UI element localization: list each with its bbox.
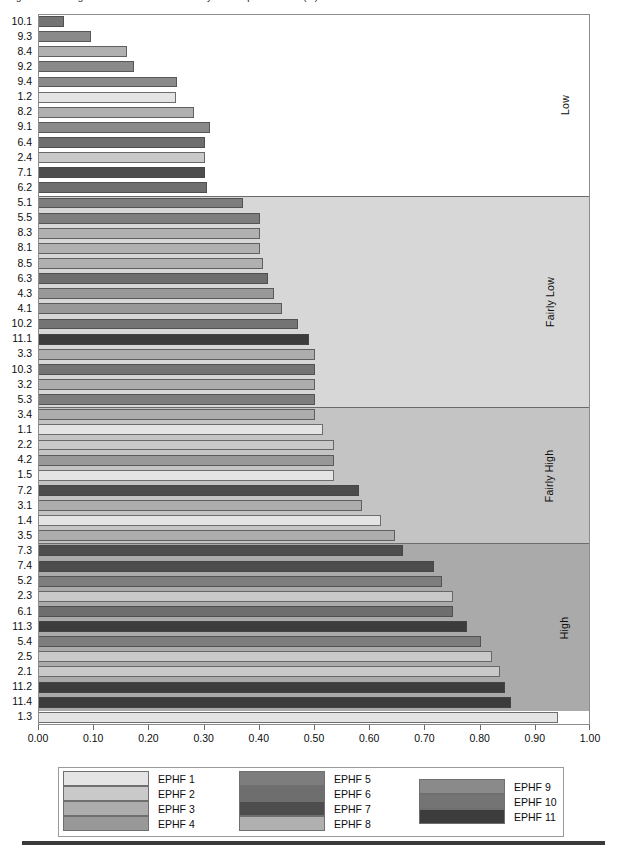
- bar-row: [39, 408, 589, 423]
- y-axis-tick-label: 5.2: [17, 574, 32, 586]
- y-axis-tick-label: 9.3: [17, 30, 32, 42]
- y-axis-tick-label: 8.5: [17, 257, 32, 269]
- bar: [39, 182, 207, 193]
- bar: [39, 167, 205, 178]
- bar: [39, 636, 481, 647]
- bar-row: [39, 181, 589, 196]
- y-axis-tick-label: 10.3: [12, 363, 32, 375]
- legend-column: EPHF 1EPHF 2EPHF 3EPHF 4: [63, 771, 195, 831]
- legend-item[interactable]: EPHF 6: [239, 786, 371, 801]
- bar: [39, 666, 500, 677]
- bar: [39, 61, 134, 72]
- y-axis-tick-label: 10.1: [12, 15, 32, 27]
- x-axis-tick: [204, 725, 205, 730]
- bar: [39, 273, 268, 284]
- bar: [39, 530, 395, 541]
- y-axis-tick-label: 5.5: [17, 211, 32, 223]
- x-axis-tick-label: 0.30: [193, 732, 213, 744]
- bar: [39, 228, 260, 239]
- legend-label: EPHF 9: [514, 781, 551, 793]
- bar-row: [39, 423, 589, 438]
- legend-item[interactable]: EPHF 1: [63, 771, 195, 786]
- legend-swatch: [239, 816, 325, 831]
- bar: [39, 77, 177, 88]
- legend-item[interactable]: EPHF 10: [419, 794, 557, 809]
- bar-row: [39, 106, 589, 121]
- legend-item[interactable]: EPHF 11: [419, 809, 557, 824]
- bar-row: [39, 30, 589, 45]
- legend-swatch: [419, 794, 505, 809]
- bar-row: [39, 439, 589, 454]
- bar: [39, 561, 434, 572]
- bar-row: [39, 333, 589, 348]
- y-axis-tick-label: 9.1: [17, 120, 32, 132]
- bar: [39, 712, 558, 723]
- x-axis-tick-label: 0.70: [414, 732, 434, 744]
- bar: [39, 349, 315, 360]
- bar: [39, 621, 467, 632]
- y-axis-category-labels: 10.19.38.49.29.41.28.29.16.42.47.16.25.1…: [0, 14, 35, 725]
- legend-swatch: [419, 809, 505, 824]
- legend-item[interactable]: EPHF 2: [63, 786, 195, 801]
- x-axis-tick: [93, 725, 94, 730]
- bar-row: [39, 378, 589, 393]
- y-axis-tick-label: 8.2: [17, 105, 32, 117]
- bar-row: [39, 166, 589, 181]
- legend-swatch: [63, 816, 149, 831]
- legend-label: EPHF 4: [158, 818, 195, 830]
- legend-item[interactable]: EPHF 5: [239, 771, 371, 786]
- legend-column: EPHF 5EPHF 6EPHF 7EPHF 8: [239, 771, 371, 831]
- bar-row: [39, 45, 589, 60]
- bar-row: [39, 151, 589, 166]
- bar: [39, 697, 511, 708]
- y-axis-tick-label: 6.2: [17, 181, 32, 193]
- y-axis-tick-label: 10.2: [12, 317, 32, 329]
- legend-item[interactable]: EPHF 7: [239, 801, 371, 816]
- legend-swatch: [239, 786, 325, 801]
- y-axis-tick-label: 8.1: [17, 241, 32, 253]
- legend-swatch: [63, 771, 149, 786]
- y-axis-tick-label: 6.1: [17, 605, 32, 617]
- legend-swatch: [419, 779, 505, 794]
- bar: [39, 470, 334, 481]
- bar-row: [39, 650, 589, 665]
- legend-item[interactable]: EPHF 3: [63, 801, 195, 816]
- legend-label: EPHF 7: [334, 803, 371, 815]
- legend: EPHF 1EPHF 2EPHF 3EPHF 4EPHF 5EPHF 6EPHF…: [58, 767, 564, 837]
- legend-swatch: [239, 801, 325, 816]
- y-axis-tick-label: 5.1: [17, 196, 32, 208]
- x-axis-tick: [535, 725, 536, 730]
- bar: [39, 319, 298, 330]
- y-axis-tick-label: 1.2: [17, 90, 32, 102]
- x-axis-tick: [589, 725, 590, 730]
- bar-row: [39, 560, 589, 575]
- bar: [39, 334, 309, 345]
- x-axis-tick: [424, 725, 425, 730]
- x-axis-tick: [259, 725, 260, 730]
- y-axis-tick-label: 11.4: [12, 695, 32, 707]
- x-axis-tick: [480, 725, 481, 730]
- y-axis-tick-label: 4.1: [17, 302, 32, 314]
- y-axis-tick-label: 5.4: [17, 635, 32, 647]
- bar: [39, 31, 91, 42]
- y-axis-tick-label: 7.1: [17, 166, 32, 178]
- bar-row: [39, 711, 589, 726]
- bar: [39, 122, 210, 133]
- bar: [39, 137, 205, 148]
- y-axis-tick-label: 1.3: [17, 710, 32, 722]
- bar: [39, 303, 282, 314]
- bar-row: [39, 363, 589, 378]
- bar-row: [39, 575, 589, 590]
- legend-item[interactable]: EPHF 8: [239, 816, 371, 831]
- bar-row: [39, 197, 589, 212]
- x-axis-tick: [369, 725, 370, 730]
- legend-item[interactable]: EPHF 4: [63, 816, 195, 831]
- bar-row: [39, 227, 589, 242]
- legend-item[interactable]: EPHF 9: [419, 779, 557, 794]
- legend-column: EPHF 9EPHF 10EPHF 11: [419, 779, 557, 824]
- bar-row: [39, 590, 589, 605]
- bar: [39, 394, 315, 405]
- y-axis-tick-label: 7.2: [17, 484, 32, 496]
- bar-row: [39, 212, 589, 227]
- bar-row: [39, 514, 589, 529]
